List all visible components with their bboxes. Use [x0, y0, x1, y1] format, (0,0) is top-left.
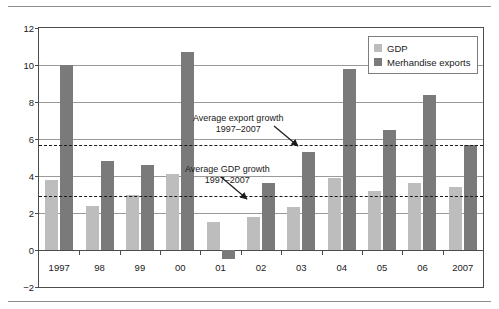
annotation-arrow-export — [272, 124, 332, 164]
y-tick-label-4: 4 — [29, 171, 34, 182]
x-tick-mark-8 — [402, 250, 403, 255]
bar-gdp-01 — [207, 222, 220, 250]
x-tick-mark-5 — [281, 250, 282, 255]
y-tick-mark-10 — [35, 65, 39, 66]
x-tick-mark-9 — [443, 250, 444, 255]
bar-exports-98 — [101, 161, 114, 250]
x-tick-mark-4 — [241, 250, 242, 255]
bar-gdp-98 — [86, 206, 99, 250]
x-tick-label-99: 99 — [135, 262, 146, 273]
y-tick-mark-4 — [35, 176, 39, 177]
bar-exports-00 — [181, 52, 194, 250]
y-tick-mark-8 — [35, 102, 39, 103]
bar-exports-01 — [222, 250, 235, 259]
bar-exports-03 — [302, 152, 315, 250]
bar-exports-1997 — [60, 65, 73, 250]
x-tick-label-03: 03 — [296, 262, 307, 273]
bar-exports-06 — [423, 95, 436, 250]
legend-swatch-merchandise-exports — [374, 58, 382, 66]
y-tick-mark-0 — [35, 250, 39, 251]
x-tick-label-04: 04 — [336, 262, 347, 273]
x-tick-label-00: 00 — [175, 262, 186, 273]
bar-gdp-05 — [368, 191, 381, 250]
bar-gdp-1997 — [45, 180, 58, 250]
annotation-arrow-gdp — [219, 175, 279, 215]
x-tick-mark-6 — [322, 250, 323, 255]
y-tick-label-12: 12 — [23, 23, 34, 34]
x-tick-label-02: 02 — [256, 262, 267, 273]
x-tick-label-01: 01 — [215, 262, 226, 273]
x-tick-mark-3 — [200, 250, 201, 255]
chart-legend: GDP Merhandise exports — [368, 36, 478, 74]
legend-item-merchandise-exports: Merhandise exports — [374, 55, 470, 69]
y-tick-label--2: −2 — [23, 282, 34, 293]
x-tick-mark-7 — [362, 250, 363, 255]
annotation-export-line2: 1997–2007 — [193, 124, 283, 135]
bottom-rule — [8, 301, 491, 302]
legend-label-merchandise-exports: Merhandise exports — [387, 57, 470, 68]
legend-label-gdp: GDP — [387, 43, 408, 54]
y-tick-label-0: 0 — [29, 245, 34, 256]
legend-swatch-gdp — [374, 44, 382, 52]
gridline-6 — [39, 139, 483, 140]
y-tick-label-10: 10 — [23, 60, 34, 71]
bar-exports-99 — [141, 165, 154, 250]
bar-gdp-00 — [166, 174, 179, 250]
zero-line — [39, 250, 483, 251]
x-tick-mark-2 — [160, 250, 161, 255]
bar-gdp-03 — [287, 207, 300, 250]
chart-figure: 121086420−2 19979899000102030405062007 G… — [0, 0, 499, 309]
bar-gdp-99 — [126, 195, 139, 251]
x-tick-mark-0 — [79, 250, 80, 255]
bar-exports-04 — [343, 69, 356, 250]
annotation-export-line1: Average export growth — [193, 113, 283, 124]
y-tick-label-6: 6 — [29, 134, 34, 145]
y-tick-mark-6 — [35, 139, 39, 140]
y-tick-mark-12 — [35, 28, 39, 29]
y-tick-mark-2 — [35, 213, 39, 214]
annotation-gdp-line1: Average GDP growth — [185, 164, 270, 175]
legend-item-gdp: GDP — [374, 41, 470, 55]
y-tick-label-2: 2 — [29, 208, 34, 219]
x-tick-label-2007: 2007 — [452, 262, 473, 273]
gridline-8 — [39, 102, 483, 103]
x-tick-label-06: 06 — [417, 262, 428, 273]
bar-gdp-06 — [408, 183, 421, 250]
bar-gdp-02 — [247, 217, 260, 250]
x-tick-label-98: 98 — [94, 262, 105, 273]
reference-line-average-export-growth — [39, 145, 483, 146]
bar-gdp-04 — [328, 178, 341, 250]
annotation-average-export-growth: Average export growth 1997–2007 — [193, 113, 283, 135]
x-tick-mark-1 — [120, 250, 121, 255]
y-tick-mark--2 — [35, 287, 39, 288]
bar-exports-05 — [383, 130, 396, 250]
x-tick-label-05: 05 — [377, 262, 388, 273]
x-tick-label-1997: 1997 — [49, 262, 70, 273]
top-rule — [8, 6, 491, 7]
y-tick-label-8: 8 — [29, 97, 34, 108]
